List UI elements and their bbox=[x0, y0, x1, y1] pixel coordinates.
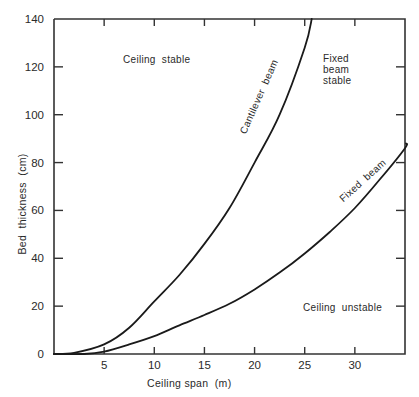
region-label-fixed-beam-stable-line2: beam bbox=[323, 64, 349, 75]
region-label-fixed-beam-stable-line3: stable bbox=[323, 75, 352, 86]
y-tick-label: 20 bbox=[31, 300, 44, 312]
curve-label-fixed-beam: Fixed beam bbox=[337, 157, 388, 204]
y-tick-label: 40 bbox=[31, 252, 44, 264]
y-axis-title: Bed thickness (cm) bbox=[16, 153, 28, 254]
x-axis-title: Ceiling span (m) bbox=[147, 377, 231, 389]
x-tick-label: 20 bbox=[248, 359, 261, 371]
region-label-ceiling-stable: Ceiling stable bbox=[123, 54, 190, 65]
x-tick-label: 25 bbox=[298, 359, 311, 371]
y-tick-label: 100 bbox=[25, 109, 44, 121]
x-tick-label: 5 bbox=[101, 359, 107, 371]
y-tick-label: 80 bbox=[31, 157, 44, 169]
chart: 51015202530 020406080100120140 Ceiling s… bbox=[0, 0, 419, 397]
y-tick-label: 120 bbox=[25, 61, 44, 73]
curve-label-cantilever-beam: Cantilever beam bbox=[237, 58, 280, 136]
x-tick-label: 30 bbox=[348, 359, 361, 371]
y-tick-label: 0 bbox=[38, 348, 44, 360]
fixed-beam-curve bbox=[54, 143, 407, 354]
region-label-ceiling-unstable: Ceiling unstable bbox=[303, 302, 382, 313]
y-tick-label: 140 bbox=[25, 13, 44, 25]
x-tick-label: 10 bbox=[148, 359, 161, 371]
y-tick-label: 60 bbox=[31, 204, 44, 216]
region-label-fixed-beam-stable-line1: Fixed bbox=[323, 53, 349, 64]
x-tick-label: 15 bbox=[198, 359, 211, 371]
